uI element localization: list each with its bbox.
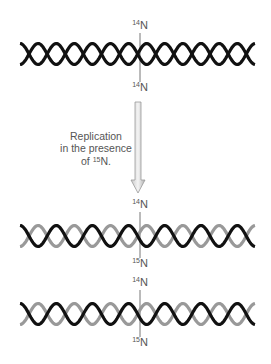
daughter2-helix-strands: [20, 304, 255, 325]
daughter2-dna-helix: [0, 0, 271, 364]
daughter2-bottom-strand-label: 15N: [132, 336, 148, 348]
